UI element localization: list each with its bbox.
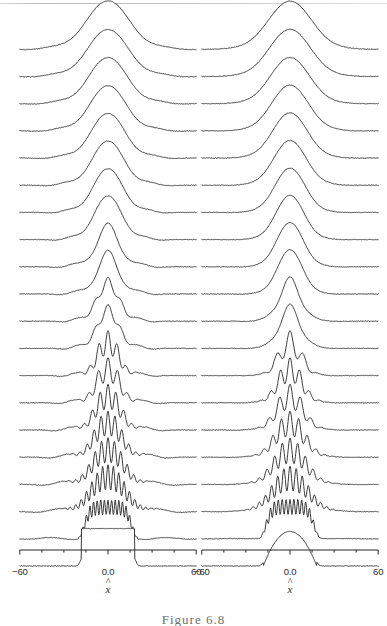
x-hat-accent-right: ^ [288, 576, 293, 587]
trace-plot-right [193, 0, 387, 600]
trace-plot-left [0, 0, 200, 600]
x-axis-line-left [0, 546, 200, 566]
x-tick-labels-left: −60 0.0 60 [0, 566, 200, 580]
trace-stack-right [193, 0, 387, 600]
x-hat-accent-left: ^ [106, 576, 111, 587]
panel-left: −60 0.0 60 ^ x [0, 0, 200, 600]
trace-stack-left [0, 0, 200, 600]
x-axis-title-right: ^ x [288, 583, 293, 595]
x-axis-title-left: ^ x [106, 583, 111, 595]
x-tick-label-max-right: 60 [373, 566, 383, 577]
x-tick-label-min-left: −60 [12, 566, 28, 577]
x-tick-label-min-right: −60 [194, 566, 210, 577]
figure-caption: Figure 6.8 [0, 612, 387, 626]
panel-right: −60 0.0 60 ^ x [193, 0, 387, 600]
x-axis-left [0, 546, 200, 566]
x-axis-right [193, 546, 387, 566]
x-axis-line-right [193, 546, 387, 566]
